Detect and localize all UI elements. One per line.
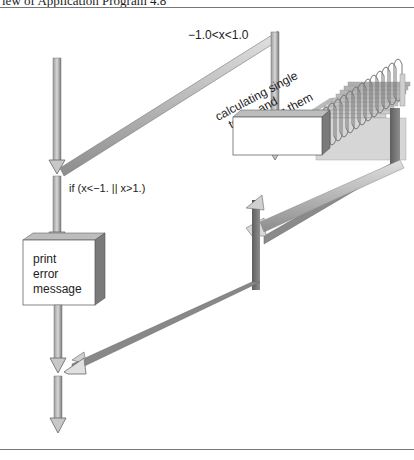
branch-condition-label: −1.0<x<1.0: [188, 28, 249, 42]
else-condition-label: if (x<−1. || x>1.): [69, 182, 145, 194]
error-to-merge-arrow: [50, 305, 66, 373]
svg-text:error: error: [33, 267, 58, 281]
flow-diagram: −1.0<x<1.0 calculating single terms and …: [0, 0, 414, 460]
svg-text:message: message: [33, 282, 82, 296]
exit-arrow: [50, 376, 66, 433]
loop-block: [233, 110, 330, 155]
svg-text:print: print: [33, 252, 57, 266]
entry-arrow: [49, 58, 65, 174]
